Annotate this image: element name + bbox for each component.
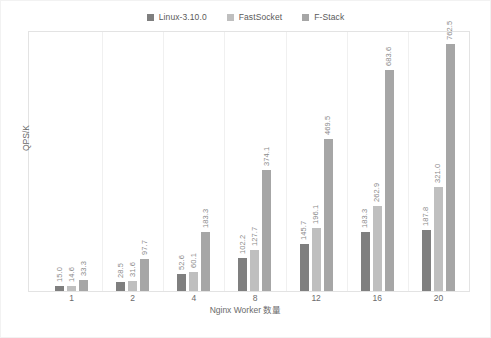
bar-value-label: 145.7 bbox=[299, 221, 308, 240]
bar-item[interactable]: 102.2 bbox=[238, 32, 247, 291]
bar[interactable] bbox=[55, 286, 64, 291]
legend-entry[interactable]: Linux-3.10.0 bbox=[147, 12, 207, 22]
bar[interactable] bbox=[324, 139, 333, 291]
chart-screenshot: Linux-3.10.0FastSocketF-Stack QPS/K 15.0… bbox=[0, 0, 491, 338]
x-axis-tick-label: 8 bbox=[224, 293, 285, 303]
bar-item[interactable]: 60.1 bbox=[189, 32, 198, 291]
bar-group: 28.531.697.7 bbox=[102, 32, 163, 291]
bar[interactable] bbox=[422, 230, 431, 291]
x-axis-tick-label: 12 bbox=[286, 293, 347, 303]
bar-group: 15.014.633.3 bbox=[41, 32, 102, 291]
bar[interactable] bbox=[189, 272, 198, 291]
bar-value-label: 374.1 bbox=[262, 147, 271, 166]
bar-item[interactable]: 15.0 bbox=[55, 32, 64, 291]
bar-value-label: 262.9 bbox=[372, 183, 381, 202]
bar-group-bars: 15.014.633.3 bbox=[41, 32, 102, 291]
bar-value-label: 187.8 bbox=[421, 207, 430, 226]
x-axis-tick-label: 20 bbox=[408, 293, 469, 303]
legend-entry[interactable]: FastSocket bbox=[227, 12, 283, 22]
bar-group: 145.7196.1469.5 bbox=[286, 32, 347, 291]
legend-swatch-icon bbox=[302, 14, 309, 21]
bar-value-label: 102.2 bbox=[238, 235, 247, 254]
bar-item[interactable]: 14.6 bbox=[67, 32, 76, 291]
bar-item[interactable]: 31.6 bbox=[128, 32, 137, 291]
bar-item[interactable]: 762.5 bbox=[446, 32, 455, 291]
legend-swatch-icon bbox=[147, 14, 154, 21]
bar-item[interactable]: 97.7 bbox=[140, 32, 149, 291]
bar-item[interactable]: 33.3 bbox=[79, 32, 88, 291]
bar-value-label: 52.6 bbox=[177, 255, 186, 270]
bar-item[interactable]: 183.3 bbox=[201, 32, 210, 291]
bar[interactable] bbox=[262, 170, 271, 291]
x-axis-tick-label: 4 bbox=[163, 293, 224, 303]
bar-value-label: 60.1 bbox=[189, 253, 198, 268]
bar-group-bars: 52.660.1183.3 bbox=[163, 32, 224, 291]
legend-label: F-Stack bbox=[314, 12, 344, 22]
bar-value-label: 15.0 bbox=[55, 267, 64, 282]
bar-group: 187.8321.0762.5 bbox=[408, 32, 469, 291]
bar-item[interactable]: 187.8 bbox=[422, 32, 431, 291]
bar-value-label: 14.6 bbox=[67, 267, 76, 282]
chart-legend: Linux-3.10.0FastSocketF-Stack bbox=[0, 12, 491, 22]
legend-entry[interactable]: F-Stack bbox=[302, 12, 344, 22]
bar[interactable] bbox=[312, 228, 321, 291]
bar-item[interactable]: 321.0 bbox=[434, 32, 443, 291]
bar[interactable] bbox=[434, 187, 443, 291]
bar-group-bars: 102.2127.7374.1 bbox=[224, 32, 285, 291]
legend-label: FastSocket bbox=[239, 12, 283, 22]
bar-group: 183.3262.9683.6 bbox=[347, 32, 408, 291]
bar-item[interactable]: 183.3 bbox=[361, 32, 370, 291]
bar[interactable] bbox=[128, 281, 137, 291]
x-axis-tick-label: 2 bbox=[102, 293, 163, 303]
bar-group-bars: 187.8321.0762.5 bbox=[408, 32, 469, 291]
bar-item[interactable]: 683.6 bbox=[385, 32, 394, 291]
bar-group-bars: 183.3262.9683.6 bbox=[347, 32, 408, 291]
bar[interactable] bbox=[177, 274, 186, 291]
bar-value-label: 183.3 bbox=[360, 208, 369, 227]
bar-item[interactable]: 262.9 bbox=[373, 32, 382, 291]
bar-item[interactable]: 374.1 bbox=[262, 32, 271, 291]
bar-value-label: 321.0 bbox=[433, 164, 442, 183]
bar-item[interactable]: 196.1 bbox=[312, 32, 321, 291]
x-axis-title: Nginx Worker 数量 bbox=[0, 303, 491, 315]
bar-item[interactable]: 52.6 bbox=[177, 32, 186, 291]
y-axis-title: QPS/K bbox=[21, 108, 31, 168]
bar-value-label: 196.1 bbox=[311, 204, 320, 223]
bar[interactable] bbox=[79, 280, 88, 291]
bar[interactable] bbox=[250, 250, 259, 291]
bar-value-label: 33.3 bbox=[79, 261, 88, 276]
bar[interactable] bbox=[446, 44, 455, 291]
bar-value-label: 762.5 bbox=[445, 21, 454, 40]
bar[interactable] bbox=[238, 258, 247, 291]
bar[interactable] bbox=[385, 70, 394, 291]
bar-group-bars: 28.531.697.7 bbox=[102, 32, 163, 291]
bar[interactable] bbox=[116, 282, 125, 291]
bar-item[interactable]: 28.5 bbox=[116, 32, 125, 291]
legend-label: Linux-3.10.0 bbox=[159, 12, 207, 22]
bar-item[interactable]: 145.7 bbox=[300, 32, 309, 291]
bar[interactable] bbox=[67, 286, 76, 291]
bar-group: 102.2127.7374.1 bbox=[224, 32, 285, 291]
bar[interactable] bbox=[300, 244, 309, 291]
bar-value-label: 97.7 bbox=[140, 240, 149, 255]
bar-value-label: 127.7 bbox=[250, 226, 259, 245]
bar-value-label: 28.5 bbox=[116, 263, 125, 278]
bar-group: 52.660.1183.3 bbox=[163, 32, 224, 291]
legend-swatch-icon bbox=[227, 14, 234, 21]
bar-value-label: 469.5 bbox=[323, 116, 332, 135]
bar-item[interactable]: 469.5 bbox=[324, 32, 333, 291]
x-axis-tick-label: 1 bbox=[41, 293, 102, 303]
bar-value-label: 683.6 bbox=[384, 46, 393, 65]
bar-value-label: 183.3 bbox=[201, 208, 210, 227]
bar[interactable] bbox=[373, 206, 382, 291]
bar-value-label: 31.6 bbox=[128, 262, 137, 277]
bar-item[interactable]: 127.7 bbox=[250, 32, 259, 291]
x-axis-tick-label: 16 bbox=[347, 293, 408, 303]
bar-group-bars: 145.7196.1469.5 bbox=[286, 32, 347, 291]
bar-groups: 15.014.633.328.531.697.752.660.1183.3102… bbox=[41, 32, 469, 291]
bar[interactable] bbox=[201, 232, 210, 291]
x-axis-tick-labels: 1248121620 bbox=[41, 293, 469, 303]
bar[interactable] bbox=[361, 232, 370, 291]
bar[interactable] bbox=[140, 259, 149, 291]
